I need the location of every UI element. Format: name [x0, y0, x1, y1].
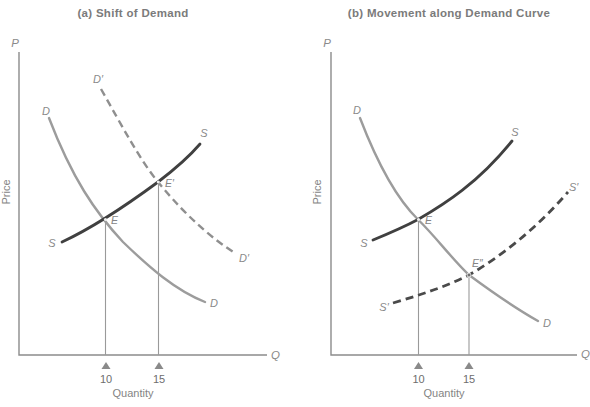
- panel-b-tick-triangle-15: [465, 362, 474, 369]
- panel-b-shifted-supply-curve: [393, 192, 568, 303]
- panel-b-e-label: E: [425, 214, 433, 226]
- panel-a-d-label-top: D: [42, 105, 50, 117]
- panel-b-q-axis-label: Q: [581, 348, 590, 360]
- panel-a-d-label-bottom: D: [210, 297, 218, 309]
- panel-a-tick-10: 10: [100, 373, 112, 385]
- panel-a-d-shift-label-bottom: D′: [239, 252, 250, 264]
- panel-a-s-label-right: S: [200, 127, 208, 139]
- panel-b-price-label: Price: [311, 179, 323, 204]
- panel-b-title: (b) Movement along Demand Curve: [348, 7, 550, 19]
- panel-b-s-label-left: S: [360, 237, 368, 249]
- panel-b-p-axis-label: P: [323, 37, 331, 49]
- panel-b-e-double-prime-label: E″: [472, 257, 484, 269]
- panel-b-tick-triangle-10: [414, 362, 423, 369]
- panel-b-equilibrium-e-dot: [417, 218, 420, 221]
- panel-b-quantity-label: Quantity: [424, 387, 465, 399]
- panel-b-s-label-right: S: [511, 126, 519, 138]
- panel-a-title: (a) Shift of Demand: [77, 7, 188, 19]
- panel-b-axes: [331, 52, 577, 355]
- panel-b-d-label-bottom: D: [543, 317, 551, 329]
- panel-a-q-axis-label: Q: [271, 349, 280, 361]
- panel-a-equilibrium-e-dot: [104, 218, 107, 221]
- panel-b-demand-curve: [360, 118, 538, 321]
- panel-b-tick-10: 10: [412, 373, 424, 385]
- panel-a-p-axis-label: P: [11, 37, 19, 49]
- panel-a-s-label-left: S: [48, 237, 56, 249]
- panel-a-tick-triangle-10: [102, 362, 111, 369]
- panel-b-s-shift-label-right: S′: [569, 181, 579, 193]
- panel-b: (b) Movement along Demand Curve P Q Pric…: [311, 7, 590, 399]
- panel-a-e-label: E: [111, 214, 119, 226]
- panel-a-equilibrium-e-prime-dot: [157, 180, 160, 183]
- panel-a-shifted-demand-curve: [101, 89, 235, 253]
- panel-b-tick-15: 15: [463, 373, 475, 385]
- panel-b-d-label-top: D: [353, 104, 361, 116]
- panel-b-s-shift-label-left: S′: [379, 301, 389, 313]
- panel-a-tick-triangle-15: [155, 362, 164, 369]
- panel-a-axes: [19, 52, 267, 355]
- panel-a-quantity-label: Quantity: [113, 387, 154, 399]
- panel-a-d-shift-label-top: D′: [93, 73, 104, 85]
- panel-b-equilibrium-e-double-prime-dot: [467, 273, 471, 277]
- panel-a-e-prime-label: E′: [165, 177, 175, 189]
- panel-a-tick-15: 15: [153, 373, 165, 385]
- panel-a-supply-curve: [62, 144, 200, 242]
- supply-demand-figure: (a) Shift of Demand P Q Price D D D′ D′ …: [0, 0, 590, 407]
- panel-a: (a) Shift of Demand P Q Price D D D′ D′ …: [0, 7, 280, 399]
- figure-canvas: (a) Shift of Demand P Q Price D D D′ D′ …: [0, 0, 590, 407]
- panel-a-price-label: Price: [0, 179, 12, 204]
